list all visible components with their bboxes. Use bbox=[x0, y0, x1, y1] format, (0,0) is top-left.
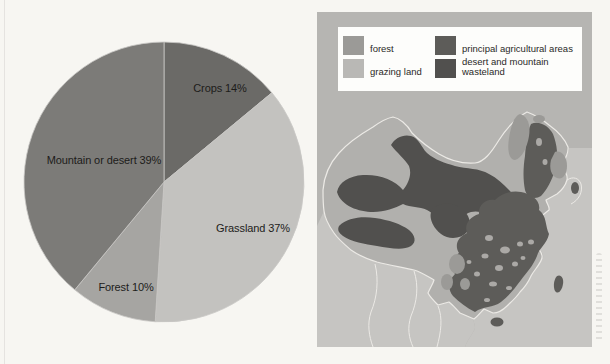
hainan-island bbox=[491, 318, 504, 327]
legend-label-agricultural: principal agricultural areas bbox=[462, 44, 573, 55]
hole-patch bbox=[484, 298, 490, 302]
hole-patch bbox=[467, 260, 472, 264]
pie-chart: Crops 14%Grassland 37%Forest 10%Mountain… bbox=[0, 0, 305, 364]
legend-label-desert-wasteland: desert and mountain wasteland bbox=[462, 57, 558, 79]
legend-item-agricultural: principal agricultural areas bbox=[435, 35, 582, 55]
hole-patch bbox=[506, 286, 512, 290]
legend-swatch-forest bbox=[343, 36, 364, 55]
forest-region-ne-top bbox=[533, 115, 545, 123]
china-landuse-map-panel: forest grazing land principal agricultur… bbox=[317, 12, 592, 347]
hole-patch bbox=[474, 272, 480, 277]
hole-patch bbox=[485, 235, 493, 241]
hole-patch bbox=[536, 138, 542, 146]
hole-patch bbox=[517, 242, 523, 247]
pie-chart-panel: Crops 14%Grassland 37%Forest 10%Mountain… bbox=[0, 0, 305, 364]
hole-patch bbox=[500, 247, 510, 254]
forest-region-southwest-1 bbox=[449, 254, 465, 274]
agricultural-region-korea-edge bbox=[571, 182, 579, 194]
legend-swatch-desert-wasteland bbox=[435, 59, 456, 78]
hole-patch bbox=[543, 159, 548, 165]
pie-slice-label-grassland: Grassland 37% bbox=[216, 222, 290, 234]
hole-patch bbox=[489, 282, 497, 287]
hole-patch bbox=[512, 262, 518, 267]
hole-patch bbox=[482, 254, 489, 259]
handwritten-margin-artifact bbox=[596, 253, 602, 341]
legend-label-grazing-land: grazing land bbox=[370, 67, 422, 78]
legend-item-forest: forest bbox=[343, 35, 435, 55]
forest-region-southwest-2 bbox=[441, 274, 453, 290]
pie-slice-label-forest: Forest 10% bbox=[98, 281, 154, 293]
hole-patch bbox=[495, 265, 503, 271]
hole-patch bbox=[528, 240, 534, 245]
legend-item-desert-wasteland: desert and mountain wasteland bbox=[435, 58, 582, 78]
legend-swatch-grazing-land bbox=[343, 59, 364, 78]
forest-region-southwest-3 bbox=[460, 278, 470, 290]
legend-swatch-agricultural bbox=[435, 36, 456, 55]
legend-item-grazing-land: grazing land bbox=[343, 58, 435, 78]
pie-slices-group bbox=[24, 42, 304, 322]
hole-patch bbox=[521, 256, 526, 260]
legend-label-forest: forest bbox=[370, 44, 394, 55]
pie-slice-label-crops: Crops 14% bbox=[193, 82, 247, 94]
map-legend: forest grazing land principal agricultur… bbox=[338, 27, 582, 91]
pie-slice-label-mountain-or-desert: Mountain or desert 39% bbox=[47, 154, 162, 166]
